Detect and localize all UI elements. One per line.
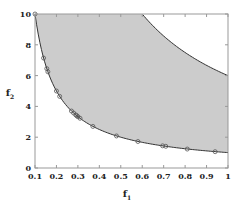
x-tick-label: 0.6 (135, 171, 149, 181)
y-tick-label: 4 (25, 101, 31, 111)
x-tick-label: 0.7 (157, 171, 171, 181)
x-axis-label: f1 (123, 188, 132, 201)
x-tick-label: 0.3 (71, 171, 85, 181)
y-tick-label: 10 (20, 9, 32, 19)
chart: 0.10.20.30.40.50.60.70.80.91 0246810 f1 … (0, 0, 241, 211)
x-tick-label: 0.8 (178, 171, 192, 181)
x-tick-label: 0.2 (49, 171, 63, 181)
y-tick-label: 2 (25, 132, 31, 142)
y-tick-label: 0 (25, 163, 31, 173)
feasible-region (35, 14, 228, 153)
x-tick-label: 0.5 (114, 171, 128, 181)
plot-area: 0.10.20.30.40.50.60.70.80.91 0246810 (20, 9, 231, 181)
x-tick-label: 0.4 (92, 171, 106, 181)
x-tick-label: 0.9 (200, 171, 214, 181)
y-tick-label: 6 (25, 71, 31, 81)
y-axis-label: f2 (6, 87, 15, 100)
x-tick-label: 1 (225, 171, 231, 181)
y-tick-label: 8 (25, 40, 31, 50)
